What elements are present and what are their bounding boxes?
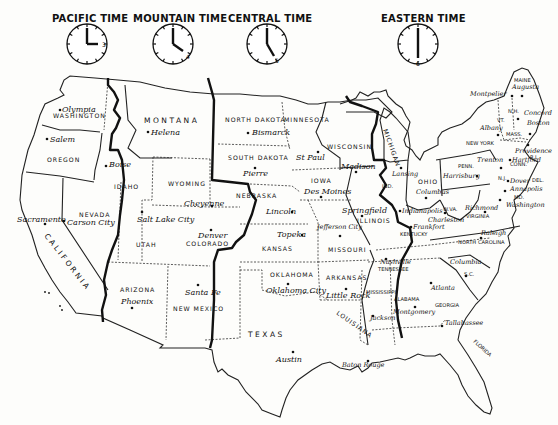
state-label-nebraska: NEBRASKA: [236, 192, 277, 199]
capital-frankfort: Frankfort: [412, 223, 445, 231]
channel-island: [44, 291, 46, 293]
state-label-ohio: OHIO: [418, 178, 438, 185]
border-nd-mn: [282, 102, 290, 150]
capital-salt-lake-city: Salt Lake City: [137, 215, 195, 224]
border-wa-or: [42, 125, 100, 132]
border-nm-tx: [205, 266, 240, 340]
state-label-indiana: IND.: [382, 183, 393, 189]
state-label-vermont: VT.: [497, 117, 505, 123]
capital-trenton: Trenton: [477, 156, 503, 164]
state-label-west-virginia: W.VA.: [443, 206, 458, 212]
state-label-utah: UTAH: [136, 241, 157, 248]
border-or-id: [94, 133, 102, 180]
zone-title-pacific: PACIFIC TIME: [52, 13, 128, 24]
capital-jefferson-city: Jefferson City: [315, 223, 362, 231]
capital-raleigh: Raleigh: [480, 229, 506, 237]
capital-lincoln: Lincoln: [265, 207, 296, 216]
capital-boston: Boston: [526, 119, 550, 127]
border-wa-id: [104, 80, 108, 130]
state-label-massachusetts: MASS.: [506, 131, 523, 137]
capital-pierre: Pierre: [242, 169, 268, 178]
state-label-south-dakota: SOUTH DAKOTA: [228, 154, 289, 161]
capital-des-moines: Des Moines: [303, 187, 351, 196]
capital-jackson: Jackson: [368, 314, 396, 322]
state-label-nevada: NEVADA: [79, 211, 111, 218]
state-label-wyoming: WYOMING: [168, 180, 206, 187]
border-sd-ne: [250, 184, 300, 192]
state-label-north-dakota: NORTH DAKOTA: [225, 116, 286, 123]
state-label-new-mexico: NEW MEXICO: [173, 305, 224, 312]
capital-madison: Madison: [340, 162, 376, 171]
capital-springfield: Springfield: [342, 206, 387, 215]
border-ca-nv: [62, 178, 108, 290]
capitals: Olympia Salem Sacramento Carson City Boi…: [17, 83, 552, 369]
border-pa-md: [442, 184, 490, 190]
border-ma-ct: [500, 140, 526, 142]
state-label-oklahoma: OKLAHOMA: [270, 271, 314, 278]
border-vt-nh: [512, 98, 514, 130]
capital-montgomery: Montgomery: [392, 308, 436, 316]
capital-austin: Austin: [275, 355, 302, 364]
state-label-new-york: NEW YORK: [466, 140, 495, 146]
capital-augusta: Augusta: [511, 83, 539, 91]
capital-santa-fe: Santa Fe: [185, 288, 221, 297]
state-label-kansas: KANSAS: [262, 245, 293, 252]
capital-denver: Denver: [197, 231, 229, 240]
channel-island: [61, 309, 63, 311]
channel-island: [48, 292, 50, 294]
capital-charleston: Charleston: [428, 216, 464, 224]
state-label-texas: TEXAS: [247, 330, 285, 339]
clock-central: CENTRAL TIME 5: [228, 13, 312, 64]
capital-harrisburg: Harrisburg: [442, 172, 480, 180]
border-mn-ia: [292, 168, 340, 170]
capital-atlanta: Atlanta: [430, 284, 455, 292]
capital-indianapolis: Indianapolis: [401, 207, 443, 215]
state-label-arkansas: ARKANSAS: [326, 274, 368, 281]
state-label-louisiana: LOUISIANA: [335, 309, 374, 339]
capital-lansing: Lansing: [391, 170, 418, 178]
capital-dover: Dover: [509, 177, 531, 185]
capital-providence: Providence: [514, 147, 552, 155]
state-label-colorado: COLORADO: [186, 240, 229, 247]
border-ut-az: [108, 262, 210, 266]
clock-eastern: EASTERN TIME 6: [381, 13, 466, 67]
capital-boise: Boise: [108, 160, 131, 169]
border-az-nm: [166, 266, 168, 340]
state-label-oregon: OREGON: [47, 156, 80, 163]
capital-washington-dc: Washington: [506, 201, 545, 209]
state-label-tennessee: TENNESSEE: [377, 266, 409, 272]
time-zone-map: PACIFIC TIME 3 MOUNTAIN TIME 4 CENTRAL T…: [0, 0, 558, 425]
zone-title-central: CENTRAL TIME: [228, 13, 312, 24]
border-al-ga: [390, 260, 395, 345]
state-label-virginia: VIRGINIA: [466, 213, 490, 219]
state-label-kentucky: KENTUCKY: [400, 231, 428, 237]
capital-concord: Concord: [524, 109, 552, 117]
capital-st-paul: St Paul: [296, 153, 325, 162]
border-nd-sd: [218, 144, 290, 146]
state-label-illinois: ILLINOIS: [357, 217, 391, 224]
capital-hartford: Hartford: [511, 156, 541, 164]
zone-title-eastern: EASTERN TIME: [381, 13, 466, 24]
clock-pacific: PACIFIC TIME 3: [52, 13, 128, 64]
capital-bismarck: Bismarck: [251, 128, 290, 137]
capital-phoenix: Phoenix: [120, 297, 154, 306]
state-label-georgia: GEORGIA: [435, 302, 460, 308]
state-label-mississippi: MISSISSIPPI: [366, 289, 396, 295]
state-label-north-carolina: NORTH CAROLINA: [458, 239, 505, 245]
state-label-new-hampshire: N.H.: [508, 108, 519, 114]
state-label-pennsylvania: PENN.: [458, 163, 474, 169]
state-label-florida: FLORIDA: [472, 338, 493, 358]
capital-carson-city: Carson City: [67, 218, 115, 227]
state-label-maryland: MD.: [514, 194, 524, 200]
border-mo-west: [308, 200, 320, 300]
capital-albany: Albany: [479, 124, 503, 132]
capital-annapolis: Annapolis: [509, 185, 543, 193]
capital-tallahassee: Tallahassee: [445, 319, 483, 327]
capital-topeka: Topeka: [277, 230, 306, 239]
capital-sacramento: Sacramento: [17, 215, 66, 224]
clock-mountain: MOUNTAIN TIME 4: [133, 13, 227, 64]
capital-oklahoma-city: Oklahoma City: [266, 286, 326, 295]
channel-island: [59, 305, 61, 307]
capital-richmond: Richmond: [464, 204, 498, 212]
capital-salem: Salem: [50, 135, 76, 144]
